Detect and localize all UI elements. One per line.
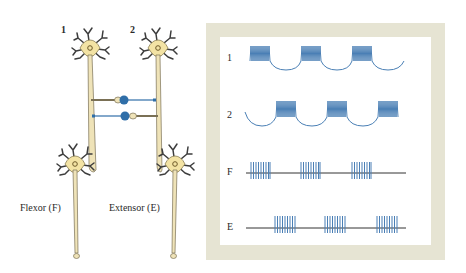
trace-label-e: E: [227, 221, 233, 232]
trace-label-1: 1: [227, 52, 232, 63]
trace-label-2: 2: [227, 109, 232, 120]
trace-label-f: F: [227, 166, 233, 177]
trace-flexor: [246, 162, 406, 179]
trace-interneuron-1: [250, 46, 404, 70]
trace-extensor: [246, 216, 406, 233]
trace-interneuron-2: [245, 101, 398, 126]
recording-traces: [0, 0, 466, 273]
